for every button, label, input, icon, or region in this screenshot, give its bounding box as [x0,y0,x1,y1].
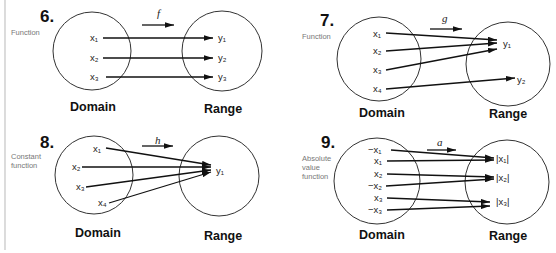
domain-element: x₂ [90,52,99,63]
mapping-arrow-icon [387,160,494,161]
range-label: Range [489,107,527,121]
mapping-arrow-icon [387,174,494,177]
range-element: y₂ [218,52,227,63]
domain-element: x₃ [76,181,85,192]
function-name: f [157,7,162,19]
domain-element: x₁ [90,32,98,43]
diagram-7: 7. Function g x₁ x₂ x₃ x₄ y₁ y₂ Domain R… [302,11,550,121]
range-element: |x₂| [496,172,509,183]
side-label: function [302,172,328,181]
domain-element: x₁ [93,143,101,154]
domain-element: x₄ [98,197,107,208]
domain-label: Domain [70,100,116,114]
domain-element: −x₂ [368,180,382,191]
diagram-number: 8. [40,133,54,152]
domain-element: x₄ [373,83,382,94]
domain-element: x₂ [373,45,382,56]
side-label: value [302,163,320,172]
domain-element: x₂ [72,161,81,172]
mapping-arrow-icon [386,179,494,186]
function-name: g [442,12,448,24]
diagram-number: 7. [320,11,334,30]
diagram-6: 6. Function f x₁ x₂ x₃ y₁ y₂ y₃ Domain R… [11,7,262,116]
domain-element: x₃ [90,71,99,82]
diagram-number: 6. [40,7,54,26]
range-label: Range [204,102,242,116]
domain-element: −x₁ [368,144,382,155]
side-label: Absolute [302,154,331,163]
diagram-9: 9. Absolute value function a −x₁ x₁ x₂ −… [302,133,549,243]
domain-element: x₂ [374,168,383,179]
domain-label: Domain [75,226,121,240]
mapping-arrow-icon [386,49,497,70]
range-circle [179,136,259,216]
domain-label: Domain [359,228,405,242]
function-mapping-diagrams: 6. Function f x₁ x₂ x₃ y₁ y₂ y₃ Domain R… [0,0,556,253]
mapping-arrow-icon [106,148,211,165]
range-label: Range [204,229,242,243]
mapping-arrow-icon [387,198,490,202]
mapping-arrow-icon [86,170,211,187]
range-circle [466,22,550,106]
range-element: y₂ [517,74,526,85]
domain-element: x₁ [373,28,381,39]
range-element: y₃ [218,71,227,82]
mapping-arrow-icon [386,33,497,40]
side-label: Function [11,28,40,37]
domain-element: x₃ [373,64,382,75]
range-element: y₁ [218,32,226,43]
range-label: Range [489,229,527,243]
mapping-arrow-icon [386,78,515,89]
domain-element: x₁ [374,155,382,166]
diagram-number: 9. [321,133,335,152]
domain-element: x₃ [374,192,383,203]
side-label: Constant [11,152,42,161]
range-element: |x₃| [496,196,510,207]
side-label: Function [302,32,331,41]
range-element: |x₁| [496,153,509,164]
domain-element: −x₃ [368,204,382,215]
function-name: a [437,136,443,148]
function-name: h [155,134,161,146]
side-label: function [11,161,37,170]
diagram-8: 8. Constant function h x₁ x₂ x₃ x₄ y₁ Do… [11,133,259,243]
mapping-arrow-icon [386,43,497,51]
range-element: y₁ [503,38,511,49]
domain-label: Domain [359,106,405,120]
range-element: y₁ [216,165,224,176]
